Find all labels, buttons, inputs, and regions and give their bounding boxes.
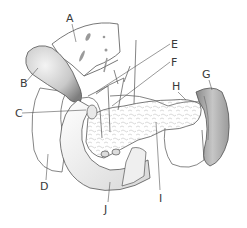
label-e: E	[171, 39, 178, 50]
label-c: C	[15, 108, 23, 119]
label-b: B	[20, 78, 28, 89]
label-g: G	[202, 69, 211, 80]
label-i: I	[159, 193, 162, 204]
label-f: F	[171, 57, 177, 68]
anatomy-diagram	[0, 0, 247, 228]
kidney-left	[164, 128, 204, 167]
label-h: H	[172, 81, 180, 92]
label-j: J	[104, 204, 107, 215]
label-a: A	[66, 13, 74, 24]
spleen	[196, 88, 229, 166]
label-d: D	[40, 181, 48, 192]
